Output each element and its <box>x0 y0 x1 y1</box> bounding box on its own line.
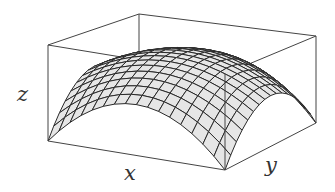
z-axis-label: z <box>17 84 28 105</box>
box-edge <box>48 141 225 170</box>
surface-plot <box>0 0 335 192</box>
dome-surface-mesh <box>48 47 316 170</box>
box-edge <box>139 14 316 36</box>
box-edge <box>48 14 139 45</box>
y-axis-label: y <box>265 155 277 176</box>
x-axis-label: x <box>124 163 136 184</box>
